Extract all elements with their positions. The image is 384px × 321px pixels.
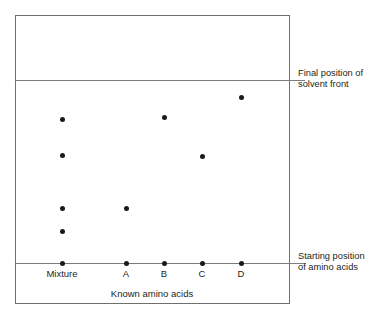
solvent-front-line [15, 80, 305, 81]
spot-mixture-4 [60, 229, 65, 234]
spot-mixture-3 [60, 206, 65, 211]
spot-b-1 [162, 115, 167, 120]
starting-position-annotation: Starting position of amino acids [298, 251, 384, 274]
column-label-c: C [199, 268, 206, 279]
spot-c-1 [200, 154, 205, 159]
spot-mixture-2 [60, 153, 65, 158]
spot-a-1 [124, 206, 129, 211]
starting-baseline-line [15, 263, 305, 264]
solvent-front-annotation-line1: Final position of [298, 68, 384, 79]
starting-position-annotation-line1: Starting position [298, 251, 384, 262]
spot-d-2 [239, 261, 244, 266]
solvent-front-annotation-line2: solvent front [298, 79, 384, 90]
chromatography-diagram: MixtureABCD Known amino acids Final posi… [0, 0, 384, 321]
starting-position-annotation-line2: of amino acids [298, 262, 384, 273]
spot-mixture-1 [60, 117, 65, 122]
column-label-d: D [238, 268, 245, 279]
column-label-a: A [123, 268, 129, 279]
spot-b-2 [162, 261, 167, 266]
column-label-b: B [161, 268, 167, 279]
x-axis-title: Known amino acids [111, 288, 193, 299]
spot-d-1 [239, 95, 244, 100]
spot-mixture-5 [60, 261, 65, 266]
chromatography-plate [15, 15, 290, 304]
spot-a-2 [124, 261, 129, 266]
solvent-front-annotation: Final position of solvent front [298, 68, 384, 91]
spot-c-2 [200, 261, 205, 266]
column-label-mixture: Mixture [46, 268, 77, 279]
